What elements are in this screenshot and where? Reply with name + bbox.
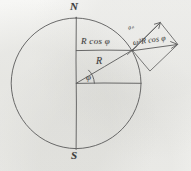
north-pole-label: N [70,1,78,12]
projection-label: R cos φ [81,37,110,46]
latitude-angle-label: φ [86,73,91,82]
diagram-canvas: N S R cos φ R φ ω²R cos φ aₙ [0,0,191,171]
radius-label: R [96,56,102,66]
acceleration-parallelogram [133,23,178,71]
radius-line [76,50,133,84]
physics-diagram-svg [0,0,191,171]
projection-line [76,50,132,51]
south-pole-label: S [71,150,77,161]
